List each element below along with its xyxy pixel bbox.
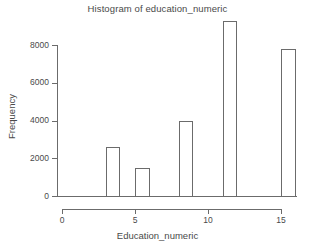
x-axis-label: Education_numeric: [0, 230, 315, 241]
y-tick-label: 4000: [30, 115, 49, 125]
y-tick-label: 2000: [30, 153, 49, 163]
y-tick-mark: [52, 158, 57, 159]
histogram-bar: [106, 147, 121, 196]
y-axis-line: [57, 45, 58, 196]
y-tick-mark: [52, 45, 57, 46]
histogram-bar: [179, 121, 194, 196]
x-tick-mark: [62, 209, 63, 214]
x-tick-label: 0: [60, 215, 65, 225]
y-tick-mark: [52, 121, 57, 122]
y-axis-label: Frequency: [6, 72, 17, 162]
x-tick-label: 15: [276, 215, 285, 225]
histogram-bar: [223, 21, 238, 196]
x-tick-mark: [208, 209, 209, 214]
x-baseline: [57, 196, 297, 197]
x-tick-label: 10: [203, 215, 212, 225]
x-axis-line: [62, 209, 281, 210]
x-tick-mark: [135, 209, 136, 214]
y-tick-label: 6000: [30, 77, 49, 87]
histogram-bar: [135, 168, 150, 196]
x-tick-mark: [281, 209, 282, 214]
y-tick-mark: [52, 83, 57, 84]
plot-area: 02000400060008000 051015: [0, 0, 315, 250]
histogram-figure: Histogram of education_numeric 020004000…: [0, 0, 315, 250]
histogram-bar: [281, 49, 296, 196]
x-tick-label: 5: [133, 215, 138, 225]
y-tick-mark: [52, 196, 57, 197]
y-tick-label: 8000: [30, 40, 49, 50]
y-tick-label: 0: [44, 191, 49, 201]
